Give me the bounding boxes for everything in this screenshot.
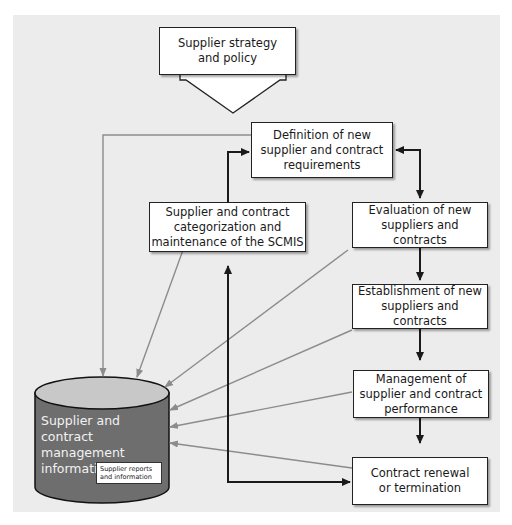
strategy-policy-box: Supplier strategy and policy bbox=[159, 27, 296, 75]
supplier-reports-box: Supplier reports and information bbox=[96, 462, 162, 484]
management-performance-box: Management of supplier and contract perf… bbox=[353, 370, 489, 418]
strategy-arrow bbox=[180, 73, 286, 113]
contract-renewal-box: Contract renewal or termination bbox=[352, 457, 488, 505]
categorization-scmis-box: Supplier and contract categorization and… bbox=[149, 202, 306, 252]
definition-requirements-box: Definition of new supplier and contract … bbox=[251, 122, 393, 178]
establishment-box: Establishment of new suppliers and contr… bbox=[352, 284, 488, 329]
evaluation-box: Evaluation of new suppliers and contract… bbox=[352, 202, 488, 248]
